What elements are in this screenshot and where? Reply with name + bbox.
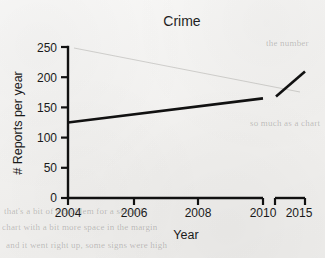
x-tick-label-2008: 2008 [185,206,212,220]
x-tick-label-2006: 2006 [121,206,148,220]
y-tick-label-150: 150 [37,101,57,115]
chart-title: Crime [163,13,201,29]
y-tick-label-0: 0 [50,191,57,205]
x-axis-label: Year [173,228,198,242]
x-tick-label-2010: 2010 [250,206,277,220]
y-tick-label-50: 50 [44,161,58,175]
y-axis-label: # Reports per year [11,71,25,175]
chart-figure: that's a bit of a problem for a second c… [0,0,325,258]
y-tick-label-250: 250 [37,41,57,55]
y-tick-label-200: 200 [37,71,57,85]
faint-ghost-line [74,48,300,92]
crime-line-chart: Crime 0 50 100 150 200 250 # Reports per… [0,0,325,258]
x-tick-label-2004: 2004 [55,206,82,220]
y-tick-label-100: 100 [37,131,57,145]
x-tick-label-2015: 2015 [286,206,313,220]
data-line-segment-2011-2015 [276,72,305,97]
data-line-segment-2004-2010 [68,98,263,122]
